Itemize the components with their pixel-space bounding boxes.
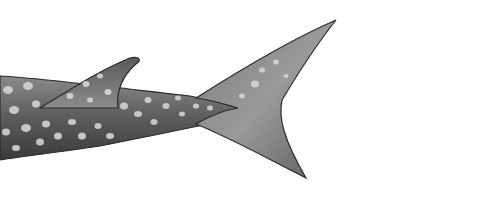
tail-fin bbox=[196, 20, 336, 178]
guitarfish-illustration bbox=[0, 0, 340, 204]
